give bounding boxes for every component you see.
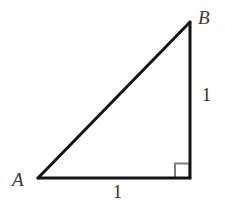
side-label-vertical-leg: 1 <box>202 86 211 104</box>
geometry-figure: A B 1 1 <box>0 0 225 208</box>
triangle-drawing <box>0 0 225 208</box>
vertex-label-b: B <box>198 8 210 27</box>
side-label-horizontal-leg: 1 <box>113 183 122 201</box>
vertex-label-a: A <box>12 170 24 189</box>
